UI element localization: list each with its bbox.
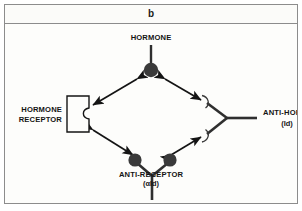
anti-receptor-sublabel-text: (αId) <box>5 179 297 189</box>
hormone-receptor-label-line2: RECEPTOR <box>19 115 63 124</box>
anti-receptor-label-text: ANTI-RECEPTOR <box>5 170 297 179</box>
panel-letter-label: b <box>148 9 154 19</box>
connections-group <box>93 79 201 155</box>
node-anti-hormone: ANTI-HORMONE (Id) <box>202 96 297 143</box>
node-hormone-receptor: HORMONE RECEPTOR <box>19 96 89 132</box>
anti-hormone-upper-binding-site-icon <box>202 96 208 109</box>
hormone-label: HORMONE <box>131 33 172 42</box>
anti-hormone-lower-arm-icon <box>207 118 227 134</box>
connection-anti-receptor-to-anti-hormone <box>171 137 201 155</box>
anti-receptor-left-circle-icon <box>128 153 141 166</box>
anti-hormone-label: ANTI-HORMONE <box>263 108 297 117</box>
panel-header: b <box>5 5 297 24</box>
hormone-receptor-notched-rect-icon <box>67 96 89 132</box>
connection-hormone-to-receptor <box>93 79 137 105</box>
node-hormone: HORMONE <box>131 33 172 77</box>
anti-receptor-right-circle-icon <box>163 153 176 166</box>
hormone-receptor-label-line1: HORMONE <box>21 105 62 114</box>
anti-receptor-label-block: ANTI-RECEPTOR (αId) <box>5 170 297 189</box>
hormone-circle-icon <box>144 63 158 77</box>
figure-root: b HORMONE <box>0 0 302 211</box>
connection-receptor-to-anti-receptor <box>93 130 133 155</box>
figure-panel: b HORMONE <box>4 4 298 204</box>
anti-hormone-sublabel: (Id) <box>281 119 293 128</box>
connection-hormone-to-anti-hormone <box>165 79 201 100</box>
anti-hormone-lower-binding-site-icon <box>202 130 208 143</box>
anti-hormone-upper-arm-icon <box>207 103 227 118</box>
